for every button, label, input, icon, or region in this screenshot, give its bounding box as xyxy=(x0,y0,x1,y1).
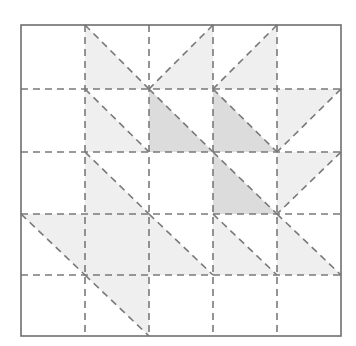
shaded-triangle-r3-c1 xyxy=(85,214,149,275)
shaded-triangles xyxy=(21,25,341,336)
quilt-grid-diagram xyxy=(0,0,356,346)
